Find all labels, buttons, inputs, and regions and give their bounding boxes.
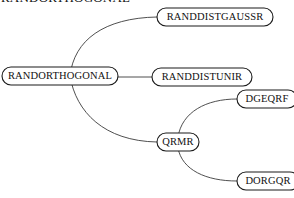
node-label-randdistgaussr: RANDDISTGAUSSR: [167, 11, 264, 22]
edge-qrmr-dgeqrf: [178, 99, 237, 137]
diagram-canvas: RANDORTHOGONAL RANDORTHOGONALRANDDISTGAU…: [0, 0, 294, 198]
edge-qrmr-dorgqr: [178, 148, 237, 181]
node-label-qrmr: QRMR: [162, 136, 194, 147]
node-label-dorgqr: DORGQR: [245, 175, 290, 186]
node-randdistgaussr[interactable]: RANDDISTGAUSSR: [157, 8, 273, 26]
node-dgeqrf[interactable]: DGEQRF: [237, 90, 294, 108]
node-label-randdistunir: RANDDISTUNIR: [162, 71, 243, 82]
node-label-randorthogonal: RANDORTHOGONAL: [8, 70, 112, 81]
call-graph: RANDORTHOGONALRANDDISTGAUSSRRANDDISTUNIR…: [0, 0, 294, 198]
nodes-layer: RANDORTHOGONALRANDDISTGAUSSRRANDDISTUNIR…: [2, 8, 294, 190]
edges-layer: [70, 17, 237, 181]
node-randdistunir[interactable]: RANDDISTUNIR: [152, 68, 252, 86]
node-qrmr[interactable]: QRMR: [157, 133, 199, 151]
node-randorthogonal[interactable]: RANDORTHOGONAL: [2, 67, 118, 85]
node-label-dgeqrf: DGEQRF: [246, 93, 289, 104]
edge-randorthogonal-qrmr: [70, 76, 157, 142]
node-dorgqr[interactable]: DORGQR: [237, 172, 294, 190]
